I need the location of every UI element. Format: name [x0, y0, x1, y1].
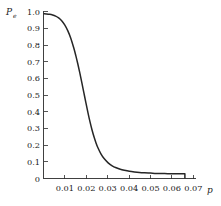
y-axis-title-subscript: e: [13, 12, 17, 19]
x-tick-label-5: 0.06: [163, 183, 181, 193]
x-axis-title: p: [207, 185, 213, 195]
x-tick-label-0: 0.01: [56, 183, 74, 193]
y-axis-title: P: [5, 7, 13, 17]
y-tick-label-5: 0.5: [27, 90, 40, 100]
y-tick-label-3: 0.3: [27, 123, 40, 133]
y-tick-label-8: 0.8: [27, 40, 40, 50]
chart-plot-area: 1.0 0.9 0.8 0.7 0.6 0.5 0.4 0.3 0.2 0.1 …: [0, 0, 221, 206]
y-tick-label-4: 0.4: [27, 107, 40, 117]
y-axis-title-group: P e: [5, 7, 17, 19]
x-tick-label-2: 0.03: [99, 183, 117, 193]
data-curve-pe: [44, 14, 185, 179]
x-tick-label-4: 0.05: [141, 183, 159, 193]
y-tick-label-6: 0.6: [27, 73, 40, 83]
y-tick-label-2: 0.2: [27, 140, 40, 150]
x-axis-group: 0.01 0.02 0.03 0.04 0.05 0.06 0.07 p: [44, 175, 214, 196]
x-tick-marks: [65, 175, 193, 179]
y-tick-label-7: 0.7: [27, 57, 40, 67]
y-tick-label-1: 0.1: [27, 157, 40, 167]
y-tick-marks: [44, 12, 48, 162]
y-tick-label-0: 0: [35, 174, 40, 184]
chart-figure: 1.0 0.9 0.8 0.7 0.6 0.5 0.4 0.3 0.2 0.1 …: [0, 0, 221, 206]
x-tick-label-6: 0.07: [184, 183, 202, 193]
y-tick-label-9: 0.9: [27, 23, 40, 33]
x-tick-label-3: 0.04: [120, 183, 138, 193]
y-tick-label-10: 1.0: [27, 7, 40, 17]
x-tick-label-1: 0.02: [77, 183, 95, 193]
y-axis-group: 1.0 0.9 0.8 0.7 0.6 0.5 0.4 0.3 0.2 0.1 …: [27, 7, 48, 184]
